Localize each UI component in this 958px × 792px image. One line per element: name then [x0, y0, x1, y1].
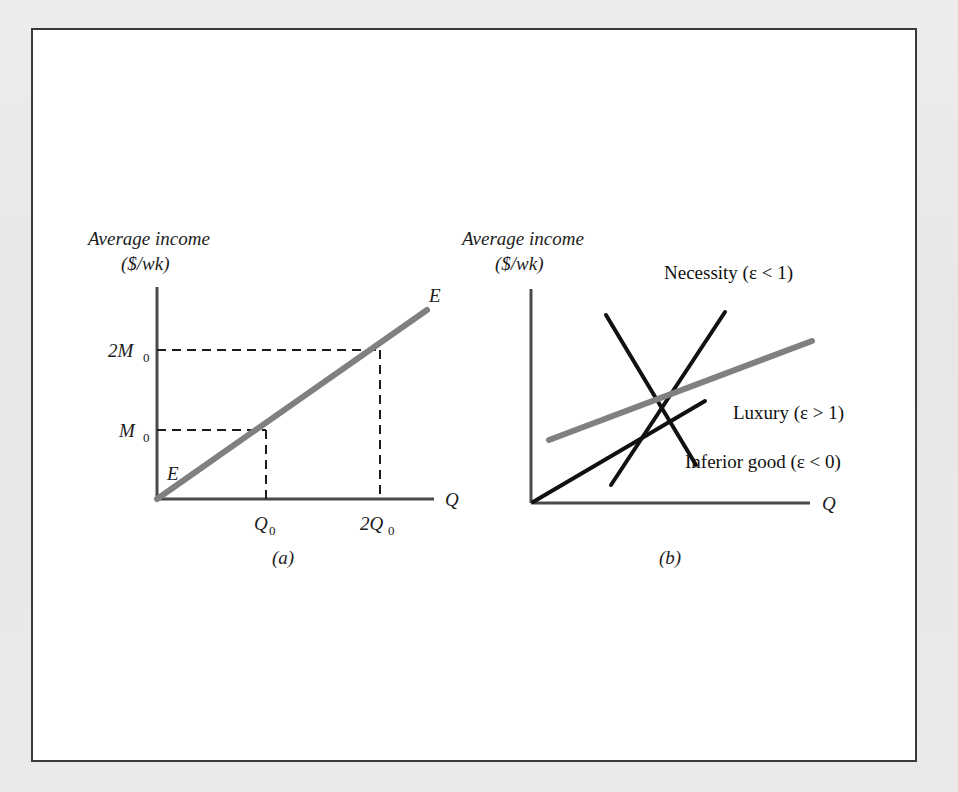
panel-a-x-axis-label: Q	[445, 489, 459, 510]
panel-a-x-tick-2q0: 2Q 0	[360, 513, 395, 538]
panel-a-y-tick-2m0-base: 2M	[108, 340, 135, 361]
panel-a-curve-label-origin: E	[166, 463, 179, 484]
figure-svg: Average income ($/wk) Q E E	[33, 30, 919, 764]
panel-b: Average income ($/wk) Q Necessity (ε < 1…	[460, 228, 844, 569]
figure-canvas: Average income ($/wk) Q E E	[33, 30, 919, 764]
panel-a-x-tick-2q0-subscript: 0	[388, 523, 395, 538]
panel-a-y-tick-m0-base: M	[118, 420, 136, 441]
panel-a-y-tick-2m0: 2M 0	[108, 340, 150, 365]
figure-frame: Average income ($/wk) Q E E	[31, 28, 917, 762]
panel-a-y-axis-title-line2: ($/wk)	[121, 253, 170, 275]
panel-a: Average income ($/wk) Q E E	[86, 228, 459, 569]
panel-a-x-tick-q0: Q 0	[254, 513, 276, 538]
panel-b-label-luxury: Luxury (ε > 1)	[733, 402, 844, 424]
panel-b-caption: (b)	[659, 547, 681, 569]
panel-b-label-necessity: Necessity (ε < 1)	[664, 262, 793, 284]
panel-a-y-tick-m0-subscript: 0	[143, 430, 150, 445]
panel-b-label-inferior-good: Inferior good (ε < 0)	[685, 451, 841, 473]
panel-b-y-axis-title-line2: ($/wk)	[495, 253, 544, 275]
panel-a-x-tick-q0-base: Q	[254, 513, 268, 534]
panel-a-caption: (a)	[272, 547, 294, 569]
panel-a-y-axis-title-line1: Average income	[86, 228, 210, 249]
panel-a-y-tick-2m0-subscript: 0	[143, 350, 150, 365]
panel-a-y-tick-m0: M 0	[118, 420, 150, 445]
panel-b-y-axis-title-line1: Average income	[460, 228, 584, 249]
panel-b-x-axis-label: Q	[822, 493, 836, 514]
panel-a-x-tick-2q0-base: 2Q	[360, 513, 384, 534]
panel-a-curve-label-end: E	[428, 285, 441, 306]
panel-a-x-tick-q0-subscript: 0	[269, 523, 276, 538]
panel-b-luxury-line	[549, 341, 812, 440]
panel-a-engel-curve	[157, 310, 427, 499]
